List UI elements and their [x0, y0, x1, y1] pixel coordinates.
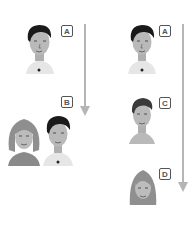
woman-b-figure [6, 114, 42, 166]
label-d: D [159, 168, 171, 180]
arrow-right-head-icon [178, 182, 188, 192]
label-c: C [159, 97, 171, 109]
man-a-left-figure [20, 22, 60, 74]
man-b-figure [40, 112, 76, 166]
woman-d-figure [128, 166, 158, 205]
arrow-left-head-icon [80, 106, 90, 116]
man-a-right-figure [124, 22, 160, 74]
label-b: B [61, 96, 73, 108]
label-a-right: A [159, 25, 171, 37]
label-a-left: A [61, 25, 73, 37]
arrow-right-line [182, 24, 184, 184]
boy-c-figure [126, 96, 158, 144]
arrow-left-line [84, 24, 86, 108]
